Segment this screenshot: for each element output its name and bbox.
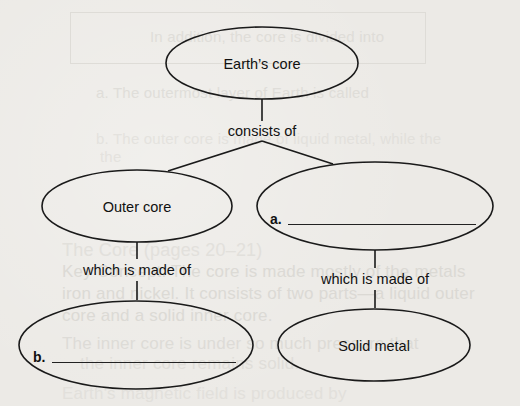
- link-label-inner-made-of: which is made of: [321, 271, 429, 287]
- connector-line: [168, 141, 262, 171]
- node-label-earths-core: Earth’s core: [223, 56, 300, 72]
- node-label-solid-metal: Solid metal: [338, 338, 410, 354]
- blank-label-b: b.: [33, 349, 45, 365]
- connector-line: [262, 141, 333, 164]
- link-label-outer-made-of: which is made of: [83, 262, 191, 278]
- blank-label-a: a.: [270, 211, 282, 227]
- node-label-outer-core: Outer core: [103, 199, 172, 215]
- link-label-consists-of: consists of: [228, 123, 297, 139]
- node-ellipse-b: [19, 301, 253, 389]
- answer-blank-b[interactable]: [52, 362, 236, 363]
- worksheet-page: In addition, the core is divided into a.…: [0, 0, 520, 406]
- node-ellipse-a: [257, 162, 493, 250]
- answer-blank-a[interactable]: [288, 224, 476, 225]
